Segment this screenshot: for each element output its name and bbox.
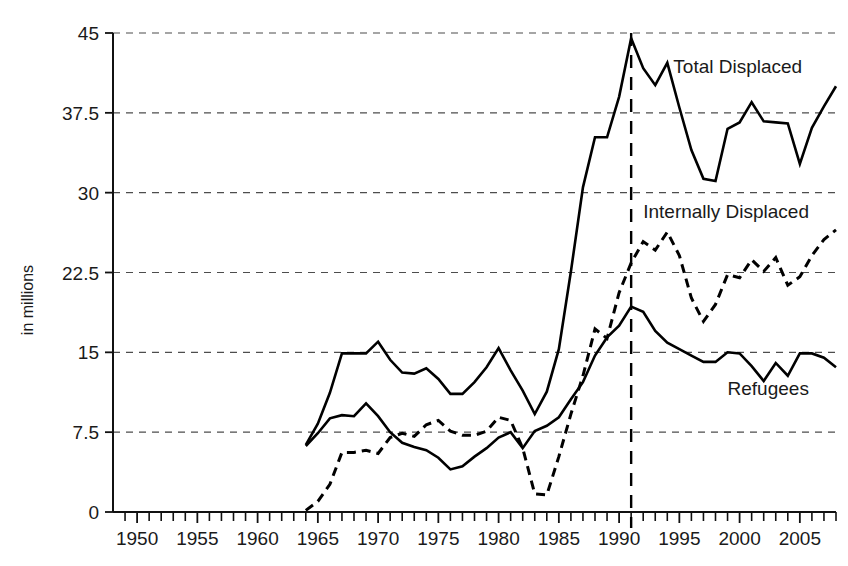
x-tick-label-1975: 1975 — [417, 528, 459, 549]
series-annotations-group: Total DisplacedInternally DisplacedRefug… — [643, 56, 809, 398]
x-tick-label-1990: 1990 — [598, 528, 640, 549]
displacement-line-chart: 07.51522.53037.545 195019551960196519701… — [0, 0, 848, 566]
y-tick-label-37.5: 37.5 — [62, 103, 99, 124]
y-tick-label-15: 15 — [78, 342, 99, 363]
series-label-internally-displaced: Internally Displaced — [643, 201, 809, 222]
y-tick-label-0: 0 — [88, 502, 99, 523]
x-tick-label-1980: 1980 — [477, 528, 519, 549]
x-tick-label-1965: 1965 — [297, 528, 339, 549]
x-tick-label-1970: 1970 — [357, 528, 399, 549]
x-tick-label-2005: 2005 — [779, 528, 821, 549]
x-tick-label-1960: 1960 — [236, 528, 278, 549]
x-tick-label-1985: 1985 — [538, 528, 580, 549]
y-axis-title: in millions — [19, 265, 36, 335]
y-tick-label-45: 45 — [78, 23, 99, 44]
x-tick-label-1950: 1950 — [116, 528, 158, 549]
data-series-group — [306, 38, 836, 510]
x-tick-label-1955: 1955 — [176, 528, 218, 549]
y-tick-labels-group: 07.51522.53037.545 — [62, 23, 99, 523]
y-tick-label-7.5: 7.5 — [73, 422, 99, 443]
y-tick-label-22.5: 22.5 — [62, 263, 99, 284]
y-tick-label-30: 30 — [78, 183, 99, 204]
series-label-refugees: Refugees — [728, 378, 809, 399]
x-tick-label-2000: 2000 — [718, 528, 760, 549]
x-tick-labels-group: 1950195519601965197019751980198519901995… — [116, 528, 821, 549]
series-label-total-displaced: Total Displaced — [673, 56, 802, 77]
chart-figure: 07.51522.53037.545 195019551960196519701… — [0, 0, 848, 566]
gridlines-group — [113, 33, 836, 432]
x-tick-label-1995: 1995 — [658, 528, 700, 549]
